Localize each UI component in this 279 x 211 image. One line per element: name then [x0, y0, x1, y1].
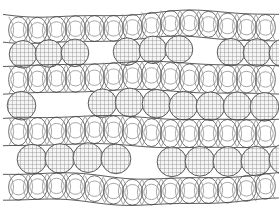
hatched-cell[interactable] [7, 91, 36, 120]
cell-body [169, 91, 198, 120]
cell-body [73, 143, 103, 173]
cell-body [217, 38, 245, 66]
hatched-cell[interactable] [35, 40, 63, 68]
hatched-cell[interactable] [45, 144, 75, 174]
cell-body [241, 146, 271, 176]
cell-body [7, 91, 36, 120]
cell-body [185, 146, 215, 176]
hatched-cell[interactable] [73, 143, 103, 173]
hatched-cell[interactable] [169, 91, 198, 120]
cell-body [45, 144, 75, 174]
hatched-cell[interactable] [243, 39, 271, 67]
cell-body [101, 144, 131, 174]
cell-body [9, 41, 37, 69]
hatched-cell[interactable] [223, 92, 252, 121]
hatched-cell[interactable] [142, 89, 171, 118]
cell-body [213, 147, 243, 177]
hatched-cell[interactable] [157, 147, 187, 177]
hatched-cell[interactable] [17, 144, 47, 174]
cell-body [139, 36, 167, 64]
cell-body [196, 92, 225, 121]
cell-body [223, 92, 252, 121]
hatched-cell[interactable] [250, 93, 279, 122]
hatched-cell[interactable] [185, 146, 215, 176]
hatched-cell[interactable] [165, 36, 193, 64]
hatched-cell[interactable] [9, 41, 37, 69]
hatched-cell[interactable] [196, 92, 225, 121]
hatched-cell[interactable] [139, 36, 167, 64]
hatched-cell[interactable] [241, 146, 271, 176]
pattern-diagram [0, 0, 279, 211]
cell-body [115, 88, 144, 117]
hatched-cell[interactable] [115, 88, 144, 117]
cell-body [165, 36, 193, 64]
cell-body [88, 89, 117, 118]
cell-body [157, 147, 187, 177]
cell-body [35, 40, 63, 68]
cell-body [243, 39, 271, 67]
cell-body [142, 89, 171, 118]
cell-body [17, 144, 47, 174]
hatched-cell[interactable] [213, 147, 243, 177]
hatched-cell[interactable] [217, 38, 245, 66]
hatched-cell[interactable] [61, 39, 89, 67]
cell-body [250, 93, 279, 122]
figure-root: Layered Cellular Band Pattern Alternatin… [0, 0, 279, 211]
hatched-cell[interactable] [88, 89, 117, 118]
cell-body [61, 39, 89, 67]
hatched-cell[interactable] [101, 144, 131, 174]
